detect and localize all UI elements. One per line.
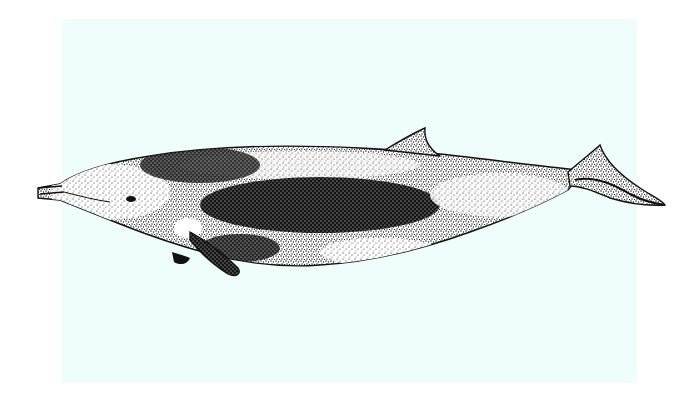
whale-illustration <box>0 0 697 399</box>
whale-body <box>38 146 578 266</box>
image-canvas <box>0 0 697 399</box>
pectoral-fin-far <box>172 252 190 264</box>
tail-flukes <box>568 145 665 205</box>
eye <box>126 196 136 202</box>
